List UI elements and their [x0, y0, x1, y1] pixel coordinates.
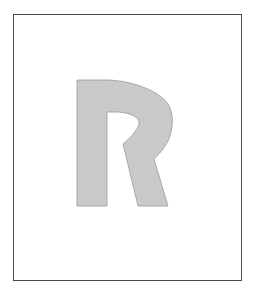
- letter-r-shape: [77, 80, 172, 206]
- letter-r-glyph: [0, 0, 253, 297]
